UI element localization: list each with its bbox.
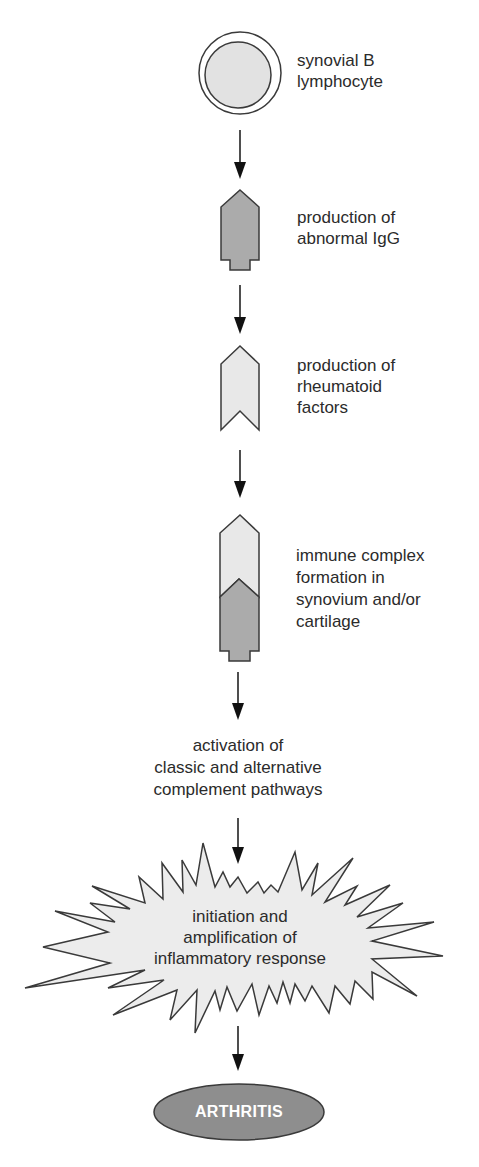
arrow-down-icon bbox=[232, 672, 244, 720]
arrow-down-icon bbox=[234, 450, 246, 498]
outcome-label-arthritis: ARTHRITIS bbox=[153, 1086, 325, 1138]
step-label-complement-activation: activation of classic and alternative co… bbox=[118, 735, 358, 801]
step-label-inflammatory-response: initiation and amplification of inflamma… bbox=[120, 906, 360, 969]
step-label-b-lymphocyte: synovial B lymphocyte bbox=[297, 50, 383, 92]
step-label-abnormal-igg: production of abnormal IgG bbox=[297, 207, 400, 249]
label-line: formation in bbox=[296, 567, 425, 589]
label-line: production of bbox=[297, 355, 395, 376]
arrow-down-icon bbox=[232, 1026, 244, 1071]
rheumatoid-factor-icon bbox=[221, 346, 259, 430]
label-line: abnormal IgG bbox=[297, 228, 400, 249]
label-line: activation of bbox=[118, 735, 358, 757]
step-label-immune-complex: immune complex formation in synovium and… bbox=[296, 545, 425, 633]
label-line: inflammatory response bbox=[120, 948, 360, 969]
label-line: synovial B bbox=[297, 50, 383, 71]
arrow-down-icon bbox=[234, 130, 246, 179]
label-line: immune complex bbox=[296, 545, 425, 567]
abnormal-igg-icon bbox=[221, 190, 259, 270]
step-label-rheumatoid-factors: production of rheumatoid factors bbox=[297, 355, 395, 418]
label-line: cartilage bbox=[296, 611, 425, 633]
b-lymphocyte-cell-icon bbox=[199, 32, 281, 114]
arrow-down-icon bbox=[234, 285, 246, 334]
label-line: factors bbox=[297, 397, 395, 418]
label-line: production of bbox=[297, 207, 400, 228]
label-line: complement pathways bbox=[118, 779, 358, 801]
immune-complex-icon bbox=[220, 515, 259, 661]
label-line: rheumatoid bbox=[297, 376, 395, 397]
arrow-down-icon bbox=[232, 818, 244, 864]
label-line: lymphocyte bbox=[297, 71, 383, 92]
label-line: classic and alternative bbox=[118, 757, 358, 779]
label-line: initiation and bbox=[120, 906, 360, 927]
label-line: synovium and/or bbox=[296, 589, 425, 611]
label-line: amplification of bbox=[120, 927, 360, 948]
